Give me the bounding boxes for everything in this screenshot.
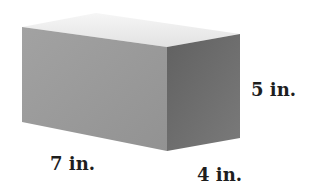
prism-side-face <box>167 34 240 151</box>
length-label: 7 in. <box>50 155 95 173</box>
height-label: 5 in. <box>251 81 296 99</box>
prism-front-face <box>22 27 167 151</box>
width-label: 4 in. <box>197 166 242 184</box>
